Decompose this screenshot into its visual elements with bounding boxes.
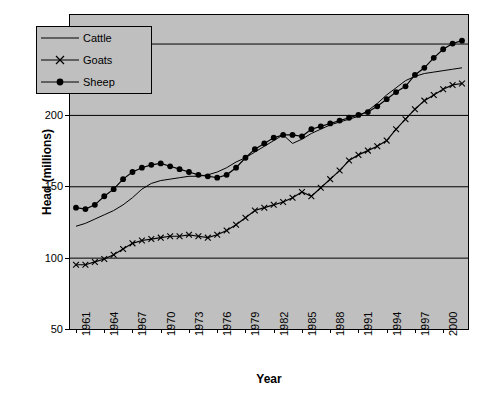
x-tick-label: 1994 [391, 312, 403, 336]
x-tick-label: 1967 [136, 312, 148, 336]
x-tick-mark [443, 329, 444, 333]
x-tick-label: 1973 [193, 312, 205, 336]
x-tick-mark [104, 329, 105, 333]
y-tick-label: 200 [29, 109, 63, 121]
x-tick-mark [76, 329, 77, 333]
legend-item-cattle: Cattle [37, 27, 151, 49]
y-tick-label: 100 [29, 252, 63, 264]
x-tick-mark [415, 329, 416, 333]
legend-label-goats: Goats [83, 54, 112, 66]
y-axis-title-wrap: Head (millions) [6, 14, 24, 330]
x-tick-label: 1988 [334, 312, 346, 336]
y-tick-mark [65, 115, 69, 116]
x-tick-label: 1979 [249, 312, 261, 336]
x-tick-label: 1970 [165, 312, 177, 336]
legend-item-goats: Goats [37, 49, 151, 71]
x-tick-mark [358, 329, 359, 333]
y-tick-mark [65, 258, 69, 259]
y-tick-mark [65, 186, 69, 187]
x-tick-label: 1961 [80, 312, 92, 336]
chart-legend: Cattle Goats Sheep [36, 26, 152, 94]
x-tick-mark [302, 329, 303, 333]
x-tick-label: 1985 [306, 312, 318, 336]
y-tick-label: 50 [29, 323, 63, 335]
y-tick-label: 150 [29, 180, 63, 192]
legend-item-sheep: Sheep [37, 71, 151, 93]
x-tick-mark [189, 329, 190, 333]
y-axis-title: Head (millions) [40, 129, 54, 215]
x-tick-mark [387, 329, 388, 333]
legend-sample-goats [37, 50, 83, 70]
x-tick-label: 1991 [362, 312, 374, 336]
legend-label-cattle: Cattle [83, 32, 112, 44]
legend-label-sheep: Sheep [83, 76, 115, 88]
x-tick-mark [161, 329, 162, 333]
x-tick-mark [217, 329, 218, 333]
y-tick-mark [65, 329, 69, 330]
x-tick-mark [245, 329, 246, 333]
chart-container: Head (millions) 25020015010050 196119641… [0, 0, 504, 394]
legend-sample-cattle [37, 28, 83, 48]
x-tick-label: 1976 [221, 312, 233, 336]
x-axis-title: Year [69, 372, 469, 386]
x-tick-label: 1982 [278, 312, 290, 336]
x-tick-label: 2000 [447, 312, 459, 336]
x-tick-mark [330, 329, 331, 333]
x-tick-label: 1964 [108, 312, 120, 336]
legend-sample-sheep [37, 72, 83, 92]
x-tick-mark [132, 329, 133, 333]
x-tick-label: 1997 [419, 312, 431, 336]
x-tick-mark [274, 329, 275, 333]
